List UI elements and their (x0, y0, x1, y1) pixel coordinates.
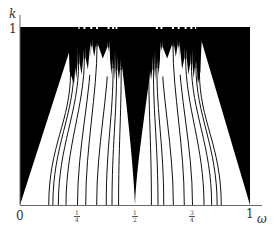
y-tick-label-1: 1 (9, 23, 17, 35)
arnold-tongues-plot (0, 0, 278, 232)
x-axis-label: ω (257, 213, 267, 225)
x-tick-label-half: 1 2 (130, 210, 140, 223)
threeq-denominator: 4 (190, 216, 194, 223)
y-axis-label: k (9, 8, 16, 20)
quarter-numerator: 1 (75, 209, 79, 216)
x-tick-label-1: 1 (246, 208, 254, 220)
half-denominator: 2 (133, 216, 137, 223)
plot-area (20, 15, 262, 206)
x-tick-label-0: 0 (16, 210, 24, 222)
quarter-denominator: 4 (75, 216, 79, 223)
half-numerator: 1 (133, 209, 137, 216)
threeq-numerator: 3 (190, 209, 194, 216)
x-tick-label-quarter: 1 4 (72, 210, 82, 223)
x-tick-label-three-quarters: 3 4 (187, 210, 197, 223)
